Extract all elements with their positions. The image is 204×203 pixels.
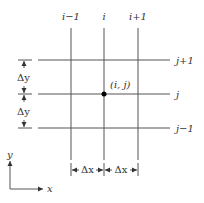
dx-label-2: Δx xyxy=(115,164,128,175)
column-label-i-plus-1: i+1 xyxy=(129,11,147,22)
node-label: (i, j) xyxy=(110,79,131,90)
dy-label-1: Δy xyxy=(17,72,30,83)
column-label-i: i xyxy=(102,11,105,22)
row-label-j-plus-1: j+1 xyxy=(174,55,194,66)
grid-diagram: i−1 i i+1 j+1 j j−1 (i, j) Δy Δy Δx Δx y… xyxy=(0,0,204,203)
column-label-i-minus-1: i−1 xyxy=(62,11,80,22)
row-label-j-minus-1: j−1 xyxy=(174,123,194,134)
dx-label-1: Δx xyxy=(81,164,94,175)
dy-label-2: Δy xyxy=(17,106,30,117)
node-point xyxy=(102,92,107,97)
row-label-j: j xyxy=(174,89,179,100)
x-axis-label: x xyxy=(47,183,53,194)
y-axis-label: y xyxy=(6,149,13,160)
